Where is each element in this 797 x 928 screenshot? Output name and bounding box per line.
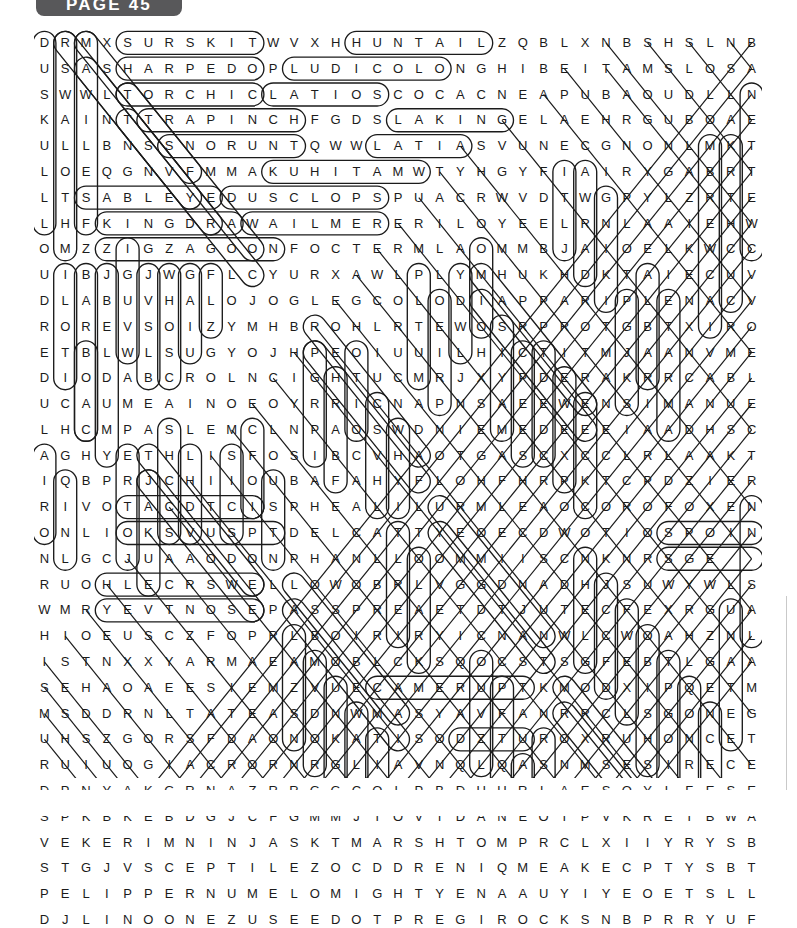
grid-letter: A: [388, 752, 409, 778]
grid-letter: P: [533, 288, 554, 314]
page-number-tab: PAGE 45: [36, 0, 182, 16]
grid-letter: H: [367, 468, 388, 494]
grid-letter: P: [429, 391, 450, 417]
grid-letter: D: [679, 82, 700, 108]
grid-letter: K: [76, 830, 97, 856]
grid-letter: W: [367, 262, 388, 288]
grid-letter: O: [575, 314, 596, 340]
grid-letter: U: [575, 82, 596, 108]
grid-letter: V: [408, 752, 429, 778]
grid-letter: A: [180, 107, 201, 133]
grid-letter: F: [284, 236, 305, 262]
grid-letter: I: [284, 211, 305, 237]
grid-letter: E: [700, 211, 721, 237]
grid-letter: O: [138, 82, 159, 108]
grid-letter: M: [471, 494, 492, 520]
grid-letter: O: [242, 468, 263, 494]
grid-letter: S: [741, 572, 762, 598]
grid-letter: R: [408, 211, 429, 237]
grid-letter: O: [200, 365, 221, 391]
grid-letter: L: [76, 520, 97, 546]
grid-letter: E: [96, 830, 117, 856]
grid-letter: O: [346, 82, 367, 108]
grid-letter: O: [596, 494, 617, 520]
grid-letter: L: [616, 701, 637, 727]
grid-letter: O: [408, 546, 429, 572]
grid-letter: N: [679, 340, 700, 366]
grid-letter: X: [575, 726, 596, 752]
grid-letter: S: [367, 185, 388, 211]
grid-letter: U: [325, 675, 346, 701]
grid-letter: T: [741, 159, 762, 185]
grid-letter: S: [720, 417, 741, 443]
grid-letter: S: [159, 520, 180, 546]
grid-letter: T: [367, 726, 388, 752]
grid-letter: A: [367, 159, 388, 185]
grid-letter: E: [180, 675, 201, 701]
grid-letter: E: [304, 520, 325, 546]
grid-letter: P: [117, 881, 138, 907]
grid-letter: C: [367, 288, 388, 314]
grid-letter: I: [55, 623, 76, 649]
grid-letter: M: [450, 546, 471, 572]
grid-letter: E: [637, 597, 658, 623]
grid-letter: R: [450, 494, 471, 520]
grid-letter: B: [367, 572, 388, 598]
grid-letter: S: [159, 340, 180, 366]
grid-letter: L: [679, 133, 700, 159]
grid-letter: D: [367, 855, 388, 881]
grid-letter: A: [700, 443, 721, 469]
grid-letter: N: [596, 211, 617, 237]
grid-letter: E: [679, 262, 700, 288]
grid-letter: A: [596, 365, 617, 391]
grid-letter: I: [554, 340, 575, 366]
grid-letter: G: [492, 159, 513, 185]
grid-letter: N: [388, 391, 409, 417]
grid-letter: O: [325, 649, 346, 675]
grid-letter: W: [221, 572, 242, 598]
grid-letter: R: [679, 830, 700, 856]
grid-letter: S: [34, 82, 55, 108]
grid-letter: S: [700, 855, 721, 881]
grid-letter: H: [471, 468, 492, 494]
grid-letter: D: [533, 520, 554, 546]
grid-letter: E: [429, 675, 450, 701]
grid-letter: C: [159, 855, 180, 881]
grid-letter: S: [138, 855, 159, 881]
grid-letter: C: [367, 391, 388, 417]
grid-letter: S: [637, 30, 658, 56]
grid-letter: D: [388, 855, 409, 881]
grid-letter: R: [304, 752, 325, 778]
grid-letter: L: [34, 159, 55, 185]
grid-letter: S: [138, 314, 159, 340]
grid-letter: H: [159, 288, 180, 314]
grid-letter: H: [34, 623, 55, 649]
grid-letter: J: [96, 262, 117, 288]
grid-letter: S: [637, 752, 658, 778]
grid-letter: K: [304, 830, 325, 856]
grid-letter: L: [76, 133, 97, 159]
grid-letter: Q: [492, 855, 513, 881]
grid-letter: H: [388, 443, 409, 469]
grid-letter: A: [408, 597, 429, 623]
grid-letter: E: [55, 881, 76, 907]
grid-letter: N: [117, 133, 138, 159]
grid-letter: C: [616, 855, 637, 881]
grid-letter: C: [741, 417, 762, 443]
grid-letter: C: [367, 675, 388, 701]
grid-letter: G: [575, 649, 596, 675]
grid-letter: O: [117, 520, 138, 546]
grid-letter: N: [242, 365, 263, 391]
grid-letter: O: [637, 133, 658, 159]
grid-letter: A: [346, 494, 367, 520]
grid-letter: K: [596, 262, 617, 288]
grid-letter: N: [554, 752, 575, 778]
grid-letter: R: [117, 468, 138, 494]
grid-letter: M: [512, 236, 533, 262]
grid-letter: P: [679, 520, 700, 546]
grid-letter: E: [55, 830, 76, 856]
grid-letter: L: [117, 572, 138, 598]
grid-letter: H: [159, 443, 180, 469]
grid-letter: O: [242, 236, 263, 262]
grid-letter: F: [304, 107, 325, 133]
